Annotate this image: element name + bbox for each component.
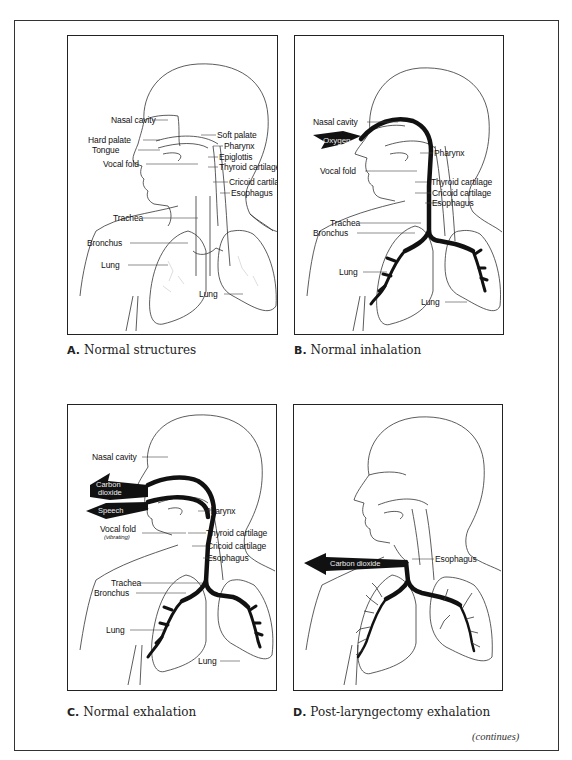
label-lung-left: Lung xyxy=(106,626,125,635)
panel-c-normal-exhalation: Carbon dioxide Speech Nasal cavity Phary… xyxy=(67,404,277,691)
panel-d-post-laryngectomy-exhalation: Carbon dioxide Esophagus xyxy=(293,404,503,691)
label-esophagus: Esophagus xyxy=(435,555,477,564)
label-vocal-fold: Vocal fold xyxy=(100,525,136,534)
caption-panel-b: B.Normal inhalation xyxy=(294,343,421,357)
panel-a-normal-structures: Nasal cavity Hard palate Tongue Vocal fo… xyxy=(67,35,278,335)
label-tongue: Tongue xyxy=(92,146,119,155)
label-esophagus: Esophagus xyxy=(207,554,249,563)
arrow-label-dioxide: dioxide xyxy=(98,489,122,497)
label-cricoid-cartilage: Cricoid cartilage xyxy=(207,542,266,551)
label-lung-right: Lung xyxy=(199,290,218,299)
arrow-label-speech: Speech xyxy=(98,507,123,515)
label-lung-left: Lung xyxy=(339,268,358,277)
label-pharynx: Pharynx xyxy=(434,149,464,158)
caption-text-c: Normal exhalation xyxy=(83,705,196,719)
arrow-label-oxygen: Oxygen xyxy=(323,137,351,145)
continues-note: (continues) xyxy=(472,731,519,742)
label-bronchus: Bronchus xyxy=(87,239,122,248)
label-vocal-fold: Vocal fold xyxy=(103,160,139,169)
label-thyroid-cartilage: Thyroid cartilage xyxy=(219,163,278,172)
label-pharynx: Pharynx xyxy=(224,142,254,151)
caption-text-b: Normal inhalation xyxy=(311,343,422,357)
label-nasal-cavity: Nasal cavity xyxy=(92,453,137,462)
label-esophagus: Esophagus xyxy=(432,199,474,208)
label-lung-left: Lung xyxy=(101,261,120,270)
label-bronchus: Bronchus xyxy=(94,589,129,598)
label-vocal-fold: Vocal fold xyxy=(320,167,356,176)
label-trachea: Trachea xyxy=(330,219,360,228)
caption-letter-a: A. xyxy=(67,344,80,357)
label-epiglottis: Epiglottis xyxy=(219,153,253,162)
label-lung-right: Lung xyxy=(198,657,217,666)
caption-letter-c: C. xyxy=(67,706,79,719)
arrow-label-carbon-dioxide: Carbon dioxide xyxy=(330,560,380,568)
label-hard-palate: Hard palate xyxy=(88,136,131,145)
anatomy-illustration-post-laryngectomy xyxy=(294,405,503,691)
caption-text-a: Normal structures xyxy=(84,343,196,357)
caption-panel-a: A.Normal structures xyxy=(67,343,196,357)
label-vocal-fold-vibrating: (vibrating) xyxy=(104,534,130,540)
label-thyroid-cartilage: Thyroid cartilage xyxy=(206,529,267,538)
caption-panel-c: C.Normal exhalation xyxy=(67,705,196,719)
label-trachea: Trachea xyxy=(113,214,143,223)
panel-b-normal-inhalation: Oxygen Nasal cavity Pharynx Vocal fold T… xyxy=(294,35,504,335)
label-bronchus: Bronchus xyxy=(313,229,348,238)
label-nasal-cavity: Nasal cavity xyxy=(313,118,358,127)
label-thyroid-cartilage: Thyroid cartilage xyxy=(431,178,492,187)
caption-letter-b: B. xyxy=(294,344,307,357)
label-cricoid-cartilage: Cricoid cartilage xyxy=(432,189,491,198)
label-pharynx: Pharynx xyxy=(205,507,235,516)
label-nasal-cavity: Nasal cavity xyxy=(111,116,156,125)
caption-panel-d: D.Post-laryngectomy exhalation xyxy=(293,705,490,719)
label-lung-right: Lung xyxy=(421,298,440,307)
label-esophagus: Esophagus xyxy=(231,189,273,198)
caption-letter-d: D. xyxy=(293,706,306,719)
label-trachea: Trachea xyxy=(111,579,141,588)
label-cricoid-cartilage: Cricoid cartilage xyxy=(229,178,278,187)
caption-text-d: Post-laryngectomy exhalation xyxy=(310,705,490,719)
label-soft-palate: Soft palate xyxy=(217,131,257,140)
